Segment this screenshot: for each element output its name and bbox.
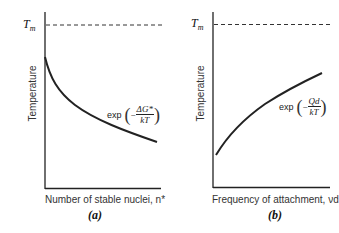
panel-b-x-label: Frequency of attachment, νd bbox=[212, 194, 339, 205]
panel-a-curve bbox=[45, 57, 157, 142]
exp-text: exp bbox=[279, 102, 294, 112]
panel-a-tm-label: Tm bbox=[23, 17, 35, 33]
panel-b-expression: exp ( − Qd kT ) bbox=[279, 96, 327, 117]
panel-a-axes bbox=[45, 12, 164, 189]
panel-b-caption: (b) bbox=[268, 208, 282, 223]
right-paren: ) bbox=[154, 106, 160, 124]
fraction: ΔG* kT bbox=[136, 104, 154, 125]
panel-b-tm-label: Tm bbox=[191, 16, 203, 32]
fraction: Qd kT bbox=[308, 96, 321, 117]
exp-text: exp bbox=[107, 110, 122, 120]
panel-a-y-label: Temperature bbox=[27, 64, 38, 124]
panel-a-caption: (a) bbox=[88, 208, 102, 223]
right-paren: ) bbox=[321, 98, 327, 116]
panel-a-x-label: Number of stable nuclei, n* bbox=[45, 194, 165, 205]
panel-b-y-label: Temperature bbox=[195, 64, 206, 124]
panel-a-expression: exp ( − ΔG* kT ) bbox=[107, 104, 160, 125]
